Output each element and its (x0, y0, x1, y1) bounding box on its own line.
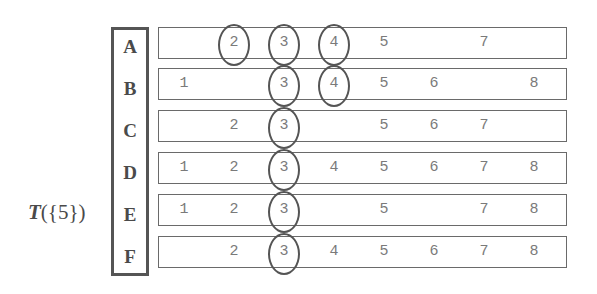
item-cell: 5 (374, 118, 394, 134)
item-cell: 4 (324, 244, 344, 260)
item-cell: 3 (274, 202, 294, 218)
item-cell: 4 (324, 76, 344, 92)
function-argument: ({5}) (41, 200, 86, 224)
item-cell: 1 (174, 202, 194, 218)
item-row-a: 23457 (158, 27, 567, 59)
item-row-e: 123578 (158, 194, 567, 226)
item-cell: 5 (374, 244, 394, 260)
item-cell: 5 (374, 35, 394, 51)
item-cell: 2 (224, 160, 244, 176)
row-letter-d: D (114, 163, 146, 183)
item-cell: 3 (274, 76, 294, 92)
item-cell: 7 (474, 118, 494, 134)
item-cell: 2 (224, 118, 244, 134)
item-row-d: 12345678 (158, 152, 567, 184)
item-cell: 5 (374, 202, 394, 218)
item-cell: 3 (274, 35, 294, 51)
item-cell: 7 (474, 35, 494, 51)
item-cell: 5 (374, 76, 394, 92)
item-cell: 8 (524, 160, 544, 176)
item-cell: 4 (324, 35, 344, 51)
item-cell: 8 (524, 76, 544, 92)
item-cell: 8 (524, 244, 544, 260)
row-letter-f: F (114, 247, 146, 267)
item-cell: 7 (474, 244, 494, 260)
function-name: T (28, 200, 41, 224)
row-letter-c: C (114, 121, 146, 141)
item-cell: 7 (474, 160, 494, 176)
item-cell: 2 (224, 35, 244, 51)
item-cell: 3 (274, 244, 294, 260)
item-cell: 6 (424, 118, 444, 134)
item-cell: 1 (174, 76, 194, 92)
item-cell: 6 (424, 244, 444, 260)
row-letter-e: E (114, 205, 146, 225)
item-cell: 2 (224, 244, 244, 260)
item-cell: 8 (524, 202, 544, 218)
item-cell: 4 (324, 160, 344, 176)
item-row-f: 2345678 (158, 236, 567, 268)
item-cell: 5 (374, 160, 394, 176)
item-cell: 7 (474, 202, 494, 218)
item-cell: 2 (224, 202, 244, 218)
item-cell: 1 (174, 160, 194, 176)
item-cell: 3 (274, 118, 294, 134)
item-cell: 6 (424, 76, 444, 92)
row-label-box: A B C D E F (111, 27, 149, 276)
item-row-b: 134568 (158, 68, 567, 100)
transaction-diagram: T({5}) A B C D E F 234571345682356712345… (0, 0, 597, 294)
item-row-c: 23567 (158, 110, 567, 142)
row-letter-a: A (114, 37, 146, 57)
item-cell: 3 (274, 160, 294, 176)
row-letter-b: B (114, 79, 146, 99)
function-label: T({5}) (28, 200, 85, 225)
item-cell: 6 (424, 160, 444, 176)
